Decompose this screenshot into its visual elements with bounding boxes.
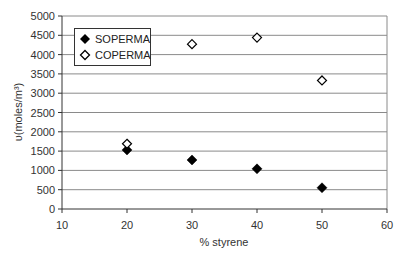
x-tick-label: 10	[56, 219, 68, 231]
y-tick-label: 1500	[31, 145, 55, 157]
legend-label: SOPERMA	[95, 31, 150, 47]
y-tick-label: 2000	[31, 126, 55, 138]
y-tick-label: 5000	[31, 10, 55, 22]
y-tick-label: 0	[49, 203, 55, 215]
y-axis-title: υ(moles/m³)	[12, 83, 24, 142]
y-tick-label: 2500	[31, 107, 55, 119]
y-tick-label: 1000	[31, 164, 55, 176]
y-tick-label: 3000	[31, 87, 55, 99]
y-tick-label: 4000	[31, 49, 55, 61]
x-tick-label: 60	[381, 219, 393, 231]
x-axis-title: % styrene	[200, 236, 249, 248]
coperma-data-point	[123, 139, 132, 148]
x-tick-label: 30	[186, 219, 198, 231]
legend-item-coperma: COPERMA	[79, 47, 151, 63]
x-tick-label: 40	[251, 219, 263, 231]
x-tick-label: 20	[121, 219, 133, 231]
soperma-data-point	[317, 183, 327, 193]
open-diamond-icon	[79, 49, 91, 61]
coperma-data-point	[318, 76, 327, 85]
legend-label: COPERMA	[95, 47, 151, 63]
soperma-data-point	[187, 155, 197, 165]
y-tick-label: 500	[37, 184, 55, 196]
filled-diamond-icon	[79, 33, 91, 45]
coperma-data-point	[188, 40, 197, 49]
y-tick-label: 4500	[31, 29, 55, 41]
scatter-chart: 0500100015002000250030003500400045005000…	[0, 0, 403, 261]
x-tick-label: 50	[316, 219, 328, 231]
legend: SOPERMA COPERMA	[74, 28, 151, 66]
soperma-data-point	[252, 164, 262, 174]
coperma-data-point	[253, 33, 262, 42]
legend-item-soperma: SOPERMA	[79, 31, 150, 47]
y-tick-label: 3500	[31, 68, 55, 80]
